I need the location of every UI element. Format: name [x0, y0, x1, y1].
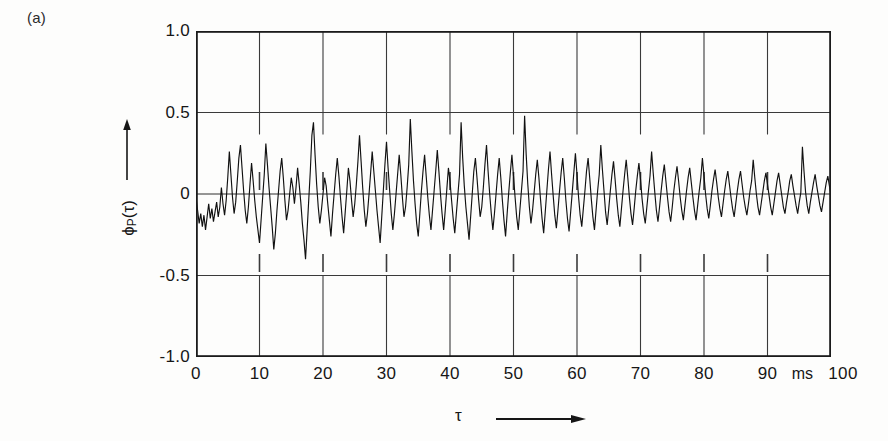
- x-axis-tick-label: 100: [828, 364, 857, 384]
- y-axis-title-symbol: ϕ: [119, 226, 138, 236]
- x-axis-tick-label: 50: [504, 364, 524, 384]
- plot-area: [196, 31, 831, 357]
- x-axis-tick-label: 60: [567, 364, 587, 384]
- y-axis-title: ϕP(τ): [119, 190, 139, 246]
- x-axis-tick-label: 70: [631, 364, 651, 384]
- x-axis-tick-label: 80: [694, 364, 714, 384]
- y-axis-tick-label: -0.5: [136, 266, 190, 286]
- x-axis-tick-label: 0: [191, 364, 201, 384]
- x-axis-tick-label: 90: [758, 364, 778, 384]
- x-axis-tick-label: 30: [377, 364, 397, 384]
- y-axis-tick-label: 0.5: [136, 103, 190, 123]
- x-axis-tick-label: 10: [250, 364, 270, 384]
- x-axis-tick-labels: 0102030405060708090100ms: [0, 364, 888, 392]
- x-axis-tick-label: 20: [313, 364, 333, 384]
- up-arrow-icon: [118, 118, 136, 182]
- right-arrow-icon: [495, 412, 587, 426]
- y-axis-tick-label: 0: [136, 184, 190, 204]
- x-axis-tick-label: 40: [440, 364, 460, 384]
- figure-autocorrelation-plot: (a) 1.00.50-0.5-1.0 ϕP(τ) 01020304050607…: [0, 0, 888, 441]
- x-axis-title: τ: [455, 406, 462, 426]
- panel-label: (a): [27, 9, 46, 26]
- y-axis-title-subscript: P: [125, 218, 139, 226]
- y-axis-title-argument: (τ): [119, 200, 138, 218]
- y-axis-tick-label: 1.0: [136, 21, 190, 41]
- x-axis-unit-label: ms: [792, 365, 813, 383]
